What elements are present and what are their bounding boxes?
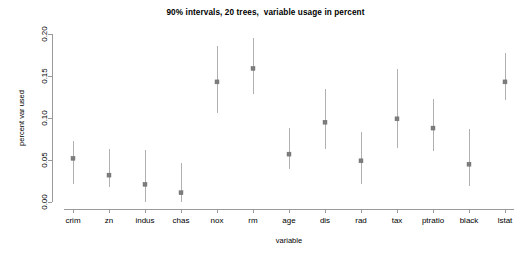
x-tick-label-rad: rad [355, 216, 367, 225]
x-tick-label-rm: rm [248, 216, 258, 225]
x-tick-label-dis: dis [320, 216, 330, 225]
x-tick-label-indus: indus [135, 216, 154, 225]
y-tick-label: 0.20 [40, 26, 49, 42]
x-tick-label-ptratio: ptratio [422, 216, 445, 225]
data-point-lstat [503, 80, 507, 84]
data-point-dis [323, 120, 327, 124]
x-tick-label-age: age [282, 216, 296, 225]
data-point-nox [215, 80, 219, 84]
y-tick-label: 0.15 [40, 68, 49, 84]
data-point-tax [395, 117, 399, 121]
data-series-intervals [71, 38, 507, 202]
axis-titles: variablepercent var used [17, 90, 303, 245]
x-tick-label-zn: zn [105, 216, 113, 225]
data-point-rad [359, 159, 363, 163]
data-point-zn [107, 173, 111, 177]
x-tick-label-crim: crim [65, 216, 80, 225]
data-point-black [467, 162, 471, 166]
y-tick-label: 0.05 [40, 152, 49, 168]
data-point-rm [251, 66, 255, 70]
x-axis: crimzninduschasnoxrmagedisradtaxptratiob… [64, 209, 514, 225]
x-tick-label-black: black [460, 216, 480, 225]
data-point-chas [179, 191, 183, 195]
y-tick-label: 0.10 [40, 110, 49, 126]
x-tick-label-chas: chas [173, 216, 190, 225]
y-axis-title: percent var used [17, 90, 26, 146]
chart-container: 90% intervals, 20 trees, variable usage … [0, 0, 531, 261]
data-point-age [287, 152, 291, 156]
y-tick-label: 0.00 [40, 194, 49, 210]
data-point-indus [143, 182, 147, 186]
data-point-ptratio [431, 126, 435, 130]
chart-plot-area: 0.000.050.100.150.20 crimzninduschasnoxr… [0, 0, 531, 261]
data-point-crim [71, 156, 75, 160]
y-axis: 0.000.050.100.150.20 [40, 26, 53, 210]
x-tick-label-nox: nox [211, 216, 224, 225]
x-tick-label-tax: tax [392, 216, 403, 225]
x-tick-label-lstat: lstat [498, 216, 513, 225]
x-axis-title: variable [276, 236, 302, 245]
